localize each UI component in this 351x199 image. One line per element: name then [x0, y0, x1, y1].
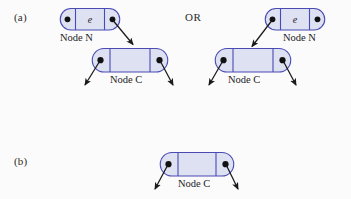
or-label: OR	[185, 11, 201, 23]
part-a-left-link-arrow	[114, 21, 134, 45]
part-a-left-node-n-label: Node N	[60, 32, 93, 43]
part-a-right-node-c	[215, 49, 291, 73]
part-a-right-node-c-label: Node C	[228, 74, 260, 85]
part-a-right-node-n: e	[265, 9, 324, 31]
part-b-label: (b)	[14, 155, 27, 167]
part-a-left-node-n: e	[60, 9, 119, 31]
part-a-right-node-n-label: Node N	[283, 32, 316, 43]
figure-canvas: e e	[0, 0, 351, 199]
node-n-right-pointer-dot	[315, 16, 321, 22]
part-b-node-c	[160, 153, 234, 177]
node-c-right-pointer-dot	[222, 161, 228, 167]
part-a-left-node-c-prev-arrow	[85, 62, 100, 86]
node-n-element-value: e	[88, 14, 93, 25]
part-a-right-link-arrow	[252, 21, 272, 47]
diagram-svg: e e	[0, 0, 351, 199]
part-b-node-c-label: Node C	[178, 178, 210, 189]
part-a-label: (a)	[14, 11, 27, 23]
part-a-left-node-c-label: Node C	[110, 74, 142, 85]
node-n-element-value: e	[293, 14, 298, 25]
node-n-left-pointer-dot	[65, 16, 71, 22]
part-a-left-node-c	[92, 49, 168, 73]
